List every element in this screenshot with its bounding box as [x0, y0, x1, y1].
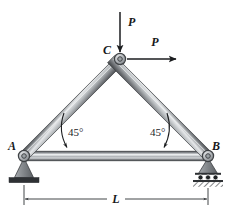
member-CB-body — [108, 56, 212, 160]
horizontal-load-label: P — [151, 35, 159, 49]
joint-label-B: B — [211, 139, 220, 153]
truss-figure: A B C P P 45° 45° L — [0, 0, 231, 217]
member-AC — [20, 56, 124, 160]
joint-label-A: A — [7, 139, 16, 153]
vertical-load-label: P — [128, 15, 136, 29]
member-CB — [108, 56, 212, 160]
angle-label-B: 45° — [150, 126, 165, 138]
roller-support-ground-line — [193, 180, 223, 182]
truss-diagram-canvas: A B C P P 45° 45° L — [0, 0, 231, 217]
pin-support-ground-base — [9, 178, 39, 183]
member-AC-highlight — [24, 59, 118, 153]
roller-support-plate — [195, 173, 221, 175]
joint-A — [18, 150, 29, 161]
roller-support-ground-hatch — [193, 182, 223, 187]
member-AB-body — [24, 151, 208, 161]
roller-support-B — [193, 158, 223, 187]
angle-label-A: 45° — [68, 126, 83, 138]
member-AB — [24, 151, 208, 161]
joint-C — [114, 53, 125, 64]
roller-support-rollers — [198, 175, 218, 180]
truss-members — [20, 56, 211, 161]
joint-label-C: C — [103, 43, 112, 57]
dimension-label-L: L — [111, 192, 119, 206]
member-CB-highlight — [114, 59, 208, 153]
member-AC-body — [20, 56, 124, 160]
